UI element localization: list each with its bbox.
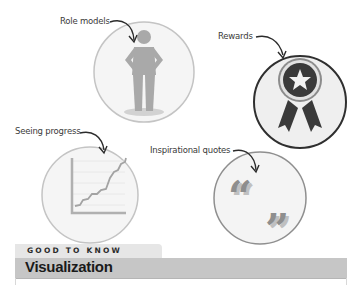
right-rule bbox=[346, 278, 347, 285]
left-rule bbox=[15, 278, 16, 285]
inspirational-quotes-illustration: “ “ ” ” bbox=[214, 152, 306, 257]
role-models-label: Role models bbox=[60, 16, 110, 26]
rewards-label: Rewards bbox=[218, 31, 253, 41]
section-title: Visualization bbox=[25, 258, 113, 275]
seeing-progress-illustration bbox=[42, 147, 138, 243]
seeing-progress-label: Seeing progress bbox=[15, 126, 80, 136]
role-models-illustration bbox=[94, 22, 194, 122]
illustration-canvas: “ “ ” ” bbox=[0, 0, 353, 285]
inspirational-quotes-label: Inspirational quotes bbox=[150, 145, 230, 155]
svg-text:“: “ bbox=[228, 173, 252, 222]
svg-text:”: ” bbox=[265, 205, 289, 254]
section-kicker: GOOD TO KNOW bbox=[27, 246, 122, 255]
rewards-illustration bbox=[254, 56, 346, 148]
